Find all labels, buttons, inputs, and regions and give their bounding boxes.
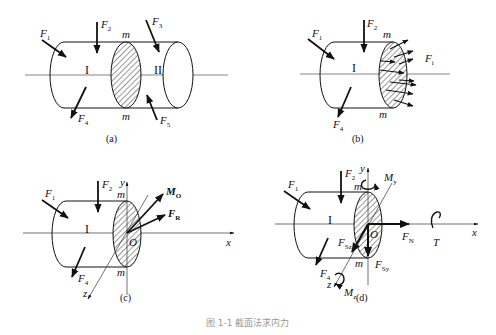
svg-text:MO: MO	[165, 185, 182, 200]
svg-text:F1: F1	[44, 187, 56, 202]
svg-text:F1: F1	[311, 27, 323, 42]
svg-text:Fi: Fi	[424, 52, 434, 67]
svg-text:m: m	[117, 266, 125, 278]
svg-text:FN: FN	[401, 230, 414, 245]
svg-text:z: z	[82, 287, 88, 299]
svg-text:x: x	[471, 226, 477, 238]
svg-text:F5: F5	[159, 114, 171, 129]
svg-text:F2: F2	[366, 17, 378, 32]
panel-label-a: (a)	[106, 133, 117, 145]
svg-text:m: m	[383, 28, 391, 40]
svg-text:m: m	[122, 110, 130, 122]
svg-text:FSz: FSz	[337, 236, 352, 251]
panel-d: F1 F2 F4 FN FSy FSz T My Mz O x y z m m …	[275, 162, 478, 304]
section-m-m	[379, 42, 407, 108]
section-m-m	[111, 42, 141, 108]
panel-a: F1 F2 F3 F4 F5 m m I II (a)	[25, 15, 228, 145]
cylinder-right-end	[163, 42, 193, 108]
svg-text:I: I	[85, 63, 89, 77]
torque-t-icon	[431, 212, 440, 228]
svg-text:FSy: FSy	[374, 258, 390, 273]
svg-text:F2: F2	[100, 18, 112, 33]
svg-text:y: y	[359, 162, 365, 174]
svg-text:I: I	[328, 213, 332, 227]
svg-text:F2: F2	[101, 178, 113, 193]
svg-text:y: y	[119, 176, 125, 188]
panel-label-d: (d)	[356, 292, 368, 304]
svg-text:I: I	[352, 61, 356, 75]
svg-text:F4: F4	[332, 118, 344, 133]
svg-text:z: z	[326, 278, 332, 290]
svg-text:O: O	[370, 228, 378, 240]
svg-text:m: m	[117, 188, 125, 200]
svg-text:x: x	[225, 236, 231, 248]
svg-text:My: My	[383, 171, 397, 186]
svg-text:FR: FR	[167, 207, 181, 222]
panel-label-c: (c)	[120, 292, 131, 304]
svg-text:Mz: Mz	[343, 286, 356, 301]
svg-text:F3: F3	[151, 15, 163, 30]
panel-c: F1 F2 F4 MO FR O x y z m m I (c)	[23, 176, 234, 304]
svg-text:F4: F4	[77, 112, 89, 127]
figure-caption: 图 1-1 截面法求内力	[206, 317, 289, 328]
svg-text:T: T	[433, 236, 440, 248]
svg-text:m: m	[355, 257, 363, 269]
svg-text:m: m	[354, 180, 362, 192]
svg-text:I: I	[85, 222, 89, 236]
svg-text:m: m	[122, 28, 130, 40]
panel-label-b: (b)	[352, 133, 364, 145]
svg-text:II: II	[154, 63, 162, 77]
internal-force-section-method-figure: F1 F2 F3 F4 F5 m m I II (a) F1	[0, 0, 496, 335]
svg-text:F1: F1	[39, 27, 51, 42]
panel-b: F1 F2 F4 Fi m m I (b)	[300, 17, 450, 145]
svg-text:O: O	[129, 236, 137, 248]
svg-text:F1: F1	[287, 178, 299, 193]
svg-text:m: m	[379, 108, 387, 120]
svg-text:F4: F4	[77, 272, 89, 287]
